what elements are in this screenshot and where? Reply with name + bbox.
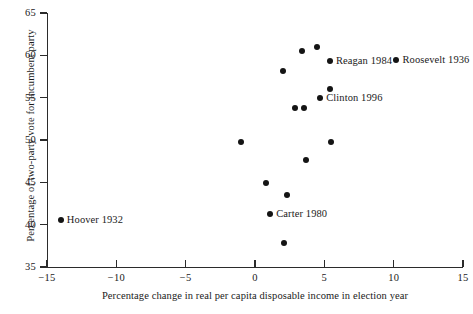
x-tick-label: 10 xyxy=(377,273,411,284)
scatter-chart: 35404550556065 −15−10−5051015 Percentage… xyxy=(0,0,473,314)
data-point xyxy=(314,44,320,50)
data-point xyxy=(263,180,269,186)
y-axis-title: Percentage of two-party vote for incumbe… xyxy=(25,11,36,261)
data-point-label: Clinton 1996 xyxy=(326,92,382,103)
data-point xyxy=(301,105,307,111)
data-point xyxy=(327,86,333,92)
data-point-label: Reagan 1984 xyxy=(336,56,392,67)
data-point-label: Roosevelt 1936 xyxy=(402,55,469,66)
data-point xyxy=(327,58,333,64)
y-tick-mark xyxy=(40,182,47,183)
x-tick-label: 5 xyxy=(307,273,341,284)
y-tick-mark xyxy=(40,55,47,56)
y-tick-label: 35 xyxy=(12,262,36,273)
x-tick-label: −5 xyxy=(169,273,203,284)
data-point xyxy=(281,240,287,246)
data-point xyxy=(267,211,273,217)
x-tick-mark xyxy=(393,260,394,267)
data-point-label: Hoover 1932 xyxy=(67,215,123,226)
x-tick-mark xyxy=(324,260,325,267)
y-tick-mark xyxy=(40,97,47,98)
data-point-label: Carter 1980 xyxy=(276,208,327,219)
x-tick-mark xyxy=(116,260,117,267)
data-point xyxy=(299,48,305,54)
y-tick-mark xyxy=(40,12,47,13)
x-axis-line xyxy=(47,267,463,268)
y-axis-line xyxy=(47,13,48,267)
x-tick-label: −15 xyxy=(30,273,64,284)
x-tick-mark xyxy=(46,260,47,267)
x-tick-label: 15 xyxy=(446,273,473,284)
data-point xyxy=(292,105,298,111)
data-point xyxy=(328,139,334,145)
data-point xyxy=(280,68,286,74)
data-point xyxy=(317,95,323,101)
x-tick-mark xyxy=(254,260,255,267)
y-tick-mark xyxy=(40,224,47,225)
x-tick-label: 0 xyxy=(238,273,272,284)
data-point xyxy=(303,157,309,163)
x-tick-label: −10 xyxy=(99,273,133,284)
data-point xyxy=(58,217,64,223)
x-axis-title: Percentage change in real per capita dis… xyxy=(47,290,463,301)
data-point xyxy=(238,139,244,145)
x-tick-mark xyxy=(462,260,463,267)
data-point xyxy=(284,192,290,198)
x-tick-mark xyxy=(185,260,186,267)
data-point xyxy=(393,57,399,63)
y-tick-mark xyxy=(40,139,47,140)
